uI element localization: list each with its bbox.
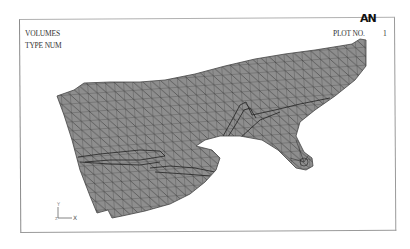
volume-mesh-plot: Y Z X: [0, 0, 410, 249]
triad-y-label: Y: [56, 201, 61, 207]
triad-axes: [58, 207, 72, 218]
mesh-body: [57, 39, 366, 218]
triad-z-label: Z: [55, 216, 58, 221]
coordinate-triad: [58, 207, 72, 218]
triad-x-label: X: [73, 214, 77, 221]
